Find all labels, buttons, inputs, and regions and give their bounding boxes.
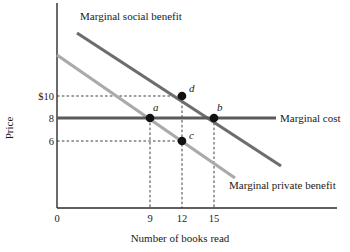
x-tick-label-9: 9 bbox=[147, 213, 152, 224]
x-tick-label-0: 0 bbox=[54, 213, 59, 224]
y-tick-label-6: 6 bbox=[49, 136, 54, 147]
x-tick-label-12: 12 bbox=[177, 213, 188, 224]
data-point-c-label: c bbox=[189, 129, 194, 141]
externality-chart: a b c d $10 8 6 0 9 12 15 Price Number o… bbox=[0, 0, 350, 252]
data-point-b bbox=[210, 114, 219, 123]
data-point-a bbox=[146, 114, 155, 123]
data-point-c bbox=[178, 137, 187, 146]
y-tick-label-10: $10 bbox=[38, 91, 54, 102]
marginal-cost-label: Marginal cost bbox=[280, 112, 341, 124]
data-point-b-label: b bbox=[217, 101, 223, 113]
data-point-a-label: a bbox=[153, 101, 159, 113]
data-point-d bbox=[178, 92, 187, 101]
y-tick-label-8: 8 bbox=[49, 113, 54, 124]
x-tick-label-15: 15 bbox=[209, 213, 220, 224]
marginal-social-benefit-curve bbox=[77, 33, 281, 166]
x-axis-title: Number of books read bbox=[131, 232, 230, 244]
data-point-d-label: d bbox=[189, 82, 195, 94]
y-axis-title: Price bbox=[3, 117, 15, 140]
marginal-private-benefit-label: Marginal private benefit bbox=[229, 179, 336, 191]
chart-canvas: a b c d $10 8 6 0 9 12 15 Price Number o… bbox=[0, 0, 350, 252]
marginal-social-benefit-label: Marginal social benefit bbox=[80, 10, 182, 22]
